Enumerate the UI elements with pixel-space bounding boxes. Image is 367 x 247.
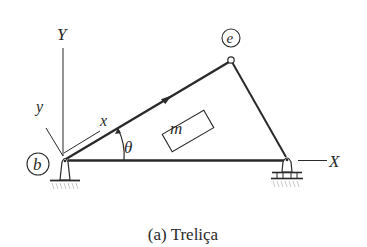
theta-label: θ (124, 138, 132, 157)
node-b: b (27, 153, 80, 189)
node-e-label: e (227, 30, 234, 46)
member-arrow-icon (161, 96, 173, 105)
pinned-support-icon (50, 159, 80, 190)
node-b-label: b (33, 155, 42, 174)
global-x-axis: X (298, 152, 340, 171)
local-x-label: x (99, 112, 107, 129)
member-b-e (66, 62, 229, 159)
figure-caption: (a) Treliça (148, 225, 219, 244)
local-y-label: y (34, 98, 44, 116)
roller-support-icon (271, 158, 303, 187)
global-x-label: X (328, 152, 340, 171)
local-y-axis: y (34, 98, 63, 156)
angle-theta: θ (115, 128, 132, 160)
node-e: e (222, 29, 240, 63)
element-m-label: m (170, 119, 182, 138)
global-y-label: Y (57, 25, 68, 44)
node-c (271, 158, 303, 187)
global-y-axis: Y (57, 25, 68, 156)
member-e-c (232, 62, 286, 157)
truss-diagram: Y y x θ m e b (0, 0, 367, 247)
